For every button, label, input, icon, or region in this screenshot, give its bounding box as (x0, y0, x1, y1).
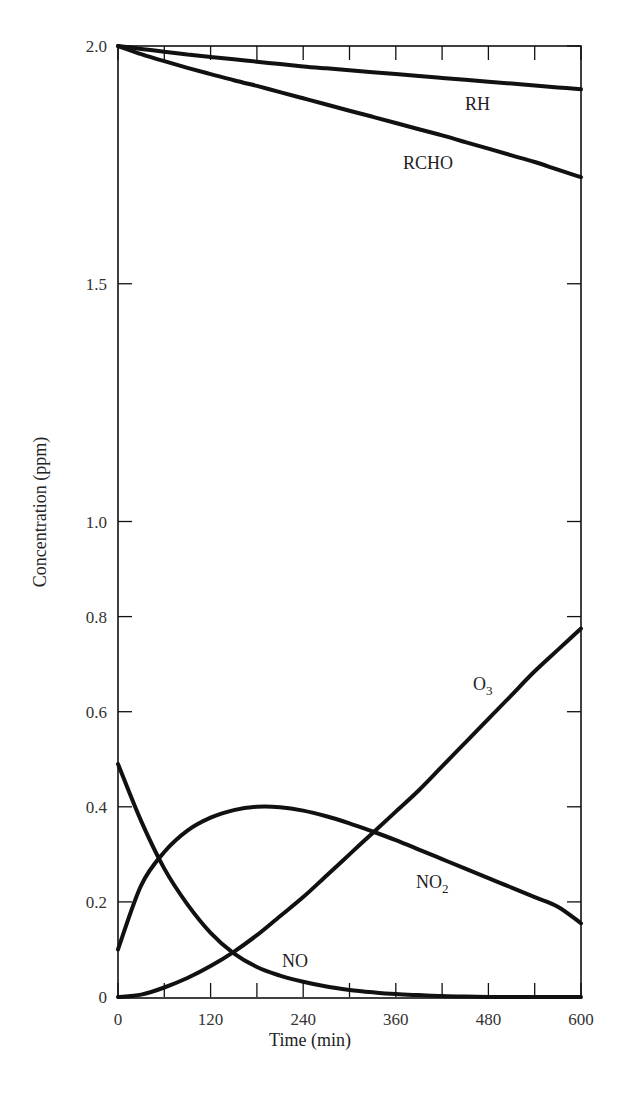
series-label-no2: NO2 (416, 872, 449, 896)
y-tick-label: 0 (99, 988, 108, 1007)
x-tick-label: 0 (114, 1010, 123, 1029)
y-tick-label: 1.5 (86, 275, 107, 294)
series-line-no (118, 764, 581, 997)
series-label-o3: O3 (473, 674, 493, 698)
y-tick-label: 2.0 (86, 37, 107, 56)
series-line-o3 (118, 629, 581, 998)
y-tick-label: 0.8 (86, 608, 107, 627)
series-labels: RHRCHOO3NO2NO (282, 94, 493, 971)
x-tick-label: 480 (476, 1010, 502, 1029)
x-tick-label: 120 (198, 1010, 224, 1029)
y-tick-label: 1.0 (86, 513, 107, 532)
y-tick-label: 0.4 (86, 798, 108, 817)
y-tick-label: 0.2 (86, 893, 107, 912)
y-axis-title: Concentration (ppm) (30, 437, 51, 587)
series-line-no2 (118, 807, 581, 950)
series-lines (118, 46, 581, 997)
concentration-time-chart: 012024036048060000.20.40.60.81.01.52.0 R… (0, 0, 619, 1093)
x-tick-label: 600 (568, 1010, 594, 1029)
x-axis-title: Time (min) (269, 1030, 351, 1051)
series-line-rcho (118, 46, 581, 177)
series-label-no: NO (282, 951, 308, 971)
x-tick-label: 360 (383, 1010, 409, 1029)
axis-tick-labels: 012024036048060000.20.40.60.81.01.52.0 (86, 37, 594, 1029)
x-tick-label: 240 (290, 1010, 316, 1029)
series-label-rcho: RCHO (403, 153, 453, 173)
y-tick-label: 0.6 (86, 703, 107, 722)
series-label-rh: RH (465, 94, 490, 114)
